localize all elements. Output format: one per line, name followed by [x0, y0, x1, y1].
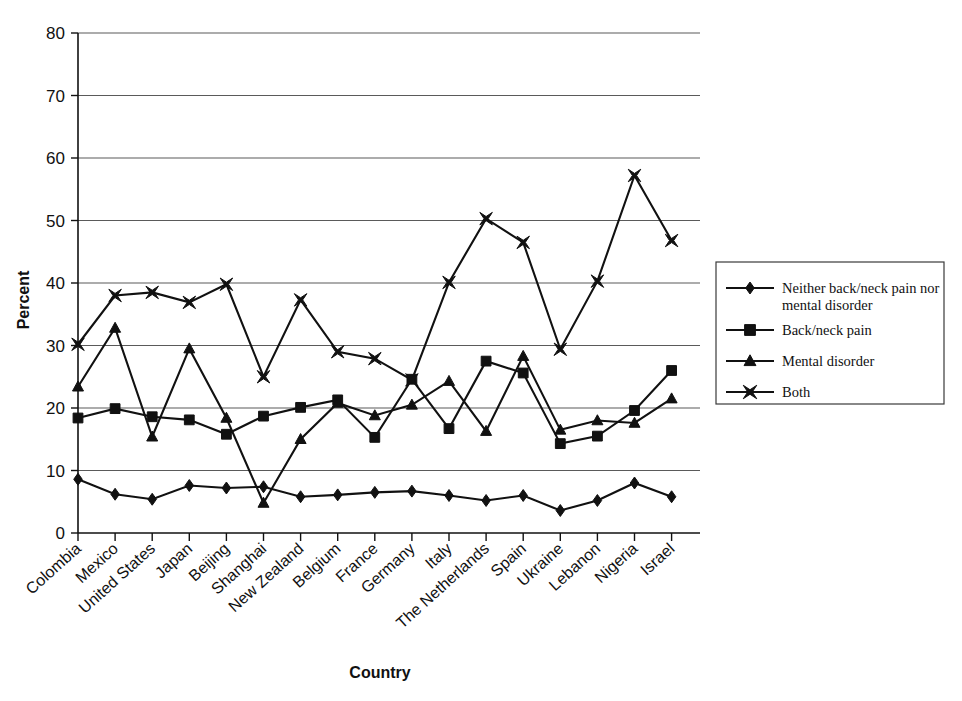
data-point-1-13: [555, 439, 565, 449]
data-point-1-2: [147, 412, 157, 422]
data-point-1-5: [259, 411, 269, 421]
legend-marker-square-icon: [745, 325, 756, 336]
line-chart: 01020304050607080 ColombiaMexicoUnited S…: [0, 0, 962, 701]
y-tick-label-20: 20: [46, 399, 65, 418]
data-point-1-1: [110, 404, 120, 414]
legend-label: Both: [782, 384, 811, 400]
y-tick-label-40: 40: [46, 274, 65, 293]
data-point-1-12: [518, 368, 528, 378]
legend-item-back-neck-pain[interactable]: Back/neck pain: [726, 322, 873, 338]
y-tick-labels: 01020304050607080: [46, 24, 65, 543]
data-point-1-11: [481, 356, 491, 366]
legend-label: Mental disorder: [782, 353, 874, 369]
data-point-1-0: [73, 413, 83, 423]
y-axis-title: Percent: [15, 270, 32, 329]
data-point-1-14: [593, 431, 603, 441]
y-tick-label-10: 10: [46, 462, 65, 481]
data-point-1-4: [222, 429, 232, 439]
data-point-1-6: [296, 402, 306, 412]
data-point-1-10: [444, 424, 454, 434]
data-point-1-16: [667, 366, 677, 376]
y-tick-label-50: 50: [46, 212, 65, 231]
data-point-1-15: [630, 406, 640, 416]
data-point-1-8: [370, 432, 380, 442]
legend: Neither back/neck pain normental disorde…: [716, 262, 944, 404]
y-tick-label-80: 80: [46, 24, 65, 43]
x-axis-title: Country: [349, 664, 410, 681]
data-point-1-3: [184, 415, 194, 425]
y-tick-label-0: 0: [56, 524, 65, 543]
chart-canvas: 01020304050607080 ColombiaMexicoUnited S…: [0, 0, 962, 701]
y-tick-label-30: 30: [46, 337, 65, 356]
y-tick-label-60: 60: [46, 149, 65, 168]
y-tick-label-70: 70: [46, 87, 65, 106]
legend-label: Back/neck pain: [782, 322, 873, 338]
